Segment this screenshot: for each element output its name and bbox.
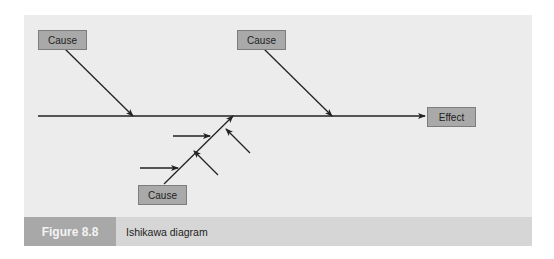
bone-bottom: [164, 116, 233, 184]
figure-caption: Figure 8.8 Ishikawa diagram: [24, 217, 532, 246]
sub-arrow-3: [226, 129, 250, 153]
cause-box-top-right: Cause: [237, 30, 286, 50]
figure-title: Ishikawa diagram: [116, 217, 208, 246]
sub-arrow-4: [194, 151, 218, 175]
cause-label: Cause: [148, 190, 177, 201]
bone-top-left: [65, 49, 133, 116]
bone-top-right: [264, 49, 332, 116]
cause-label: Cause: [247, 35, 276, 46]
cause-label: Cause: [48, 35, 77, 46]
cause-box-top-left: Cause: [38, 30, 87, 50]
effect-box: Effect: [427, 107, 476, 127]
effect-label: Effect: [439, 112, 464, 123]
cause-box-bottom: Cause: [138, 185, 187, 205]
figure-number: Figure 8.8: [24, 217, 116, 246]
